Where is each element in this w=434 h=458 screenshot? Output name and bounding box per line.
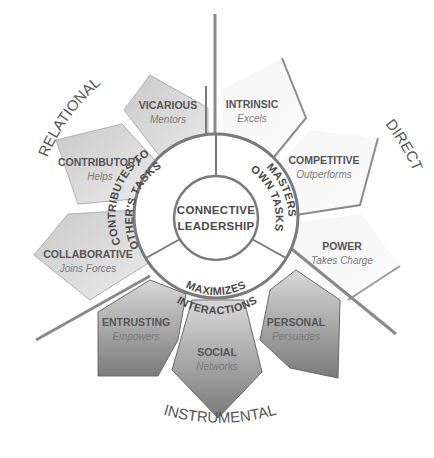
label-personal: PERSONAL [267, 316, 326, 328]
label-intrinsic: INTRINSIC [226, 98, 279, 110]
petal-social[interactable] [172, 300, 262, 418]
label-social: SOCIAL [197, 346, 237, 358]
sub-personal: Persuades [272, 331, 320, 342]
label-collaborative: COLLABORATIVE [43, 248, 133, 260]
center-line2: LEADERSHIP [177, 220, 254, 232]
dimension-direct: DIRECT [383, 116, 427, 174]
sub-power: Takes Charge [311, 255, 373, 266]
sub-social: Networks [196, 361, 238, 372]
label-power: POWER [322, 240, 362, 252]
sub-entrusting: Empowers [112, 331, 159, 342]
label-vicarious: VICARIOUS [139, 99, 197, 111]
inner-circle [174, 176, 258, 260]
center-line1: CONNECTIVE [177, 204, 255, 216]
label-contributory: CONTRIBUTORY [58, 156, 142, 168]
sub-contributory: Helps [87, 171, 113, 182]
sub-intrinsic: Excels [237, 113, 266, 124]
petal-entrusting[interactable] [98, 280, 186, 376]
label-competitive: COMPETITIVE [288, 154, 359, 166]
sub-collaborative: Joins Forces [59, 263, 117, 274]
label-entrusting: ENTRUSTING [102, 316, 170, 328]
sub-competitive: Outperforms [296, 169, 352, 180]
sub-vicarious: Mentors [150, 114, 186, 125]
connective-leadership-diagram: CONNECTIVE LEADERSHIP CONTRIBUTES TO OTH… [0, 0, 434, 458]
